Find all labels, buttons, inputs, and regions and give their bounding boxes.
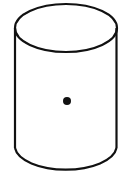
cylinder-diagram (0, 0, 120, 183)
center-point-dot (63, 97, 71, 105)
